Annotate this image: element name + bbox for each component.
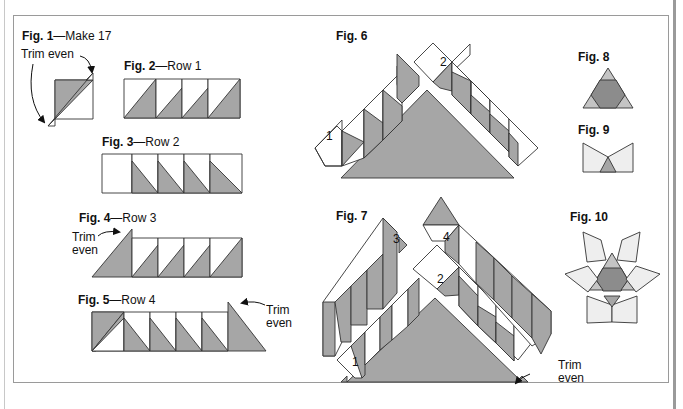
fig1-label: Fig. 1—Make 17 bbox=[22, 30, 111, 43]
fig3-label: Fig. 3—Row 2 bbox=[102, 136, 179, 149]
fig5-trim-note: Trimeven bbox=[266, 304, 292, 330]
fig2-label: Fig. 2—Row 1 bbox=[124, 60, 201, 73]
fig4-trim-note: Trimeven bbox=[72, 231, 98, 257]
fig9-label: Fig. 9 bbox=[578, 124, 609, 137]
fig7-row3-number: 3 bbox=[393, 233, 400, 246]
fig5-label: Fig. 5—Row 4 bbox=[78, 294, 155, 307]
fig10-star bbox=[565, 232, 660, 323]
fig8-hexagon-triangle bbox=[583, 68, 633, 108]
fig7-row4-number: 4 bbox=[443, 231, 450, 244]
fig1-trim-note: Trim even bbox=[21, 48, 74, 61]
fig7-row2-number: 2 bbox=[437, 273, 444, 286]
fig6-row2-number: 2 bbox=[440, 56, 447, 69]
fig8-label: Fig. 8 bbox=[578, 51, 609, 64]
fig4-label: Fig. 4—Row 3 bbox=[79, 212, 156, 225]
fig6-label: Fig. 6 bbox=[336, 30, 367, 43]
fig7-trim-note: Trimeven bbox=[558, 359, 584, 385]
fig9-kite-unit bbox=[583, 143, 633, 172]
fig3-row2 bbox=[102, 154, 242, 193]
fig6-row1-number: 1 bbox=[326, 130, 333, 143]
fig7-label: Fig. 7 bbox=[336, 210, 367, 223]
fig10-label: Fig. 10 bbox=[570, 211, 608, 224]
fig6-assembly bbox=[315, 43, 538, 178]
fig2-row1 bbox=[124, 79, 240, 118]
fig4-row3 bbox=[92, 229, 242, 277]
fig1-half-square-triangle bbox=[48, 73, 93, 126]
fig5-row4 bbox=[92, 302, 266, 351]
fig7-row1-number: 1 bbox=[352, 356, 359, 369]
